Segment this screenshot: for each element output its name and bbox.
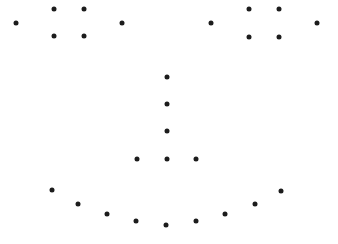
mouth-dot bbox=[194, 219, 199, 224]
mouth-dot bbox=[164, 223, 169, 228]
left-eye-dot bbox=[82, 34, 87, 39]
right-eye-dot bbox=[277, 35, 282, 40]
nose-dot bbox=[165, 129, 170, 134]
mouth-dot bbox=[223, 212, 228, 217]
dot-face-diagram bbox=[0, 0, 338, 244]
left-eye-dot bbox=[82, 7, 87, 12]
right-eye-dot bbox=[315, 21, 320, 26]
left-eye-dot bbox=[52, 34, 57, 39]
left-eye-dot bbox=[52, 7, 57, 12]
nose-dot bbox=[165, 75, 170, 80]
right-eye-dot bbox=[209, 21, 214, 26]
right-eye-dot bbox=[277, 7, 282, 12]
right-eye-dot bbox=[247, 35, 252, 40]
right-eye-dot bbox=[247, 7, 252, 12]
nose-dot bbox=[135, 157, 140, 162]
mouth-dot bbox=[134, 219, 139, 224]
nose-dot bbox=[194, 157, 199, 162]
mouth-dot bbox=[50, 188, 55, 193]
mouth-dot bbox=[105, 212, 110, 217]
mouth-dot bbox=[253, 202, 258, 207]
left-eye-dot bbox=[14, 21, 19, 26]
mouth-dot bbox=[279, 189, 284, 194]
nose-dot bbox=[165, 157, 170, 162]
left-eye-dot bbox=[120, 21, 125, 26]
nose-dot bbox=[165, 102, 170, 107]
mouth-dot bbox=[76, 202, 81, 207]
